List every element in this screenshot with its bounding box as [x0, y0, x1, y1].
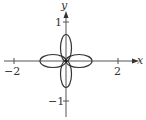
- origin-point: [65, 60, 68, 63]
- y-axis-arrow-icon: [64, 11, 69, 18]
- y-tick-label-1: 1: [55, 16, 62, 29]
- polar-rose-chart: x y −2 2 1 −1: [0, 0, 146, 120]
- x-tick-label-2: 2: [114, 65, 121, 78]
- x-axis-label: x: [137, 54, 144, 67]
- y-tick-label-neg1: −1: [48, 95, 64, 108]
- y-axis-label: y: [60, 0, 68, 12]
- x-tick-label-neg2: −2: [4, 65, 20, 78]
